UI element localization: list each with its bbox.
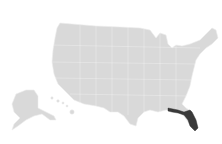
map-svg	[0, 0, 222, 144]
hawaii-island	[66, 105, 68, 107]
us-choropleth-map	[0, 0, 222, 144]
hawaii-island	[70, 110, 74, 114]
hawaii-island	[62, 102, 64, 104]
hawaii-island	[51, 97, 53, 99]
hawaii-island	[57, 100, 60, 103]
hawaii[interactable]	[51, 97, 74, 114]
alaska[interactable]	[12, 90, 56, 130]
